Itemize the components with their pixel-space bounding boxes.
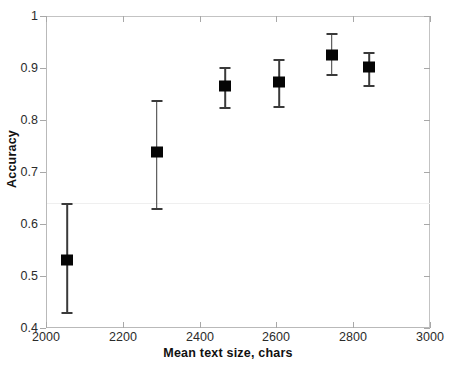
error-bar-cap-upper bbox=[364, 52, 375, 54]
y-axis-tick bbox=[40, 120, 46, 121]
x-axis-title: Mean text size, chars bbox=[0, 346, 456, 360]
data-point-marker[interactable] bbox=[363, 61, 375, 72]
y-axis-tick bbox=[40, 328, 46, 329]
data-point-marker[interactable] bbox=[61, 254, 73, 265]
error-bar-cap-lower bbox=[219, 107, 230, 109]
y-axis-tick bbox=[40, 172, 46, 173]
reference-line bbox=[47, 203, 430, 204]
y-axis-tick-label-text: 0.6 bbox=[21, 217, 38, 231]
x-axis-tick bbox=[430, 322, 431, 328]
error-bar-cap-upper bbox=[151, 100, 162, 102]
y-axis-tick-label-text: 0.8 bbox=[21, 113, 38, 127]
error-bar-cap-upper bbox=[274, 59, 285, 61]
error-bar-cap-lower bbox=[364, 85, 375, 87]
x-axis-tick-label: 2800 bbox=[339, 330, 367, 344]
y-axis-tick bbox=[424, 68, 430, 69]
y-axis-title: Accuracy bbox=[5, 114, 19, 204]
y-axis-tick bbox=[40, 224, 46, 225]
error-bar-cap-lower bbox=[62, 312, 73, 314]
x-axis-tick-label: 2000 bbox=[32, 330, 60, 344]
x-axis-tick-label: 2200 bbox=[109, 330, 137, 344]
x-axis-tick-label: 2600 bbox=[262, 330, 290, 344]
y-axis-tick bbox=[424, 224, 430, 225]
y-axis-tick bbox=[40, 68, 46, 69]
figure-canvas: 0.40.50.60.70.80.91 20002200240026002800… bbox=[0, 0, 456, 373]
data-point-marker[interactable] bbox=[273, 77, 285, 88]
x-axis-tick bbox=[353, 322, 354, 328]
y-axis-tick-label-text: 0.7 bbox=[21, 165, 38, 179]
x-axis-tick bbox=[46, 322, 47, 328]
x-axis-tick-label: 2400 bbox=[186, 330, 214, 344]
error-bar-cap-lower bbox=[274, 106, 285, 108]
error-bar-cap-lower bbox=[151, 208, 162, 210]
x-axis-tick bbox=[430, 16, 431, 22]
data-point-marker[interactable] bbox=[151, 147, 163, 158]
error-bar-cap-lower bbox=[326, 74, 337, 76]
y-axis-tick-label-text: 0.5 bbox=[21, 269, 38, 283]
x-axis-tick bbox=[46, 16, 47, 22]
y-axis-tick-label-text: 0.9 bbox=[21, 61, 38, 75]
error-bar-cap-upper bbox=[326, 33, 337, 35]
y-axis-tick-label-text: 1 bbox=[31, 9, 38, 23]
x-axis-tick bbox=[123, 16, 124, 22]
x-axis-tick bbox=[276, 322, 277, 328]
data-point-marker[interactable] bbox=[219, 81, 231, 92]
x-axis-tick bbox=[353, 16, 354, 22]
x-axis-tick bbox=[200, 322, 201, 328]
x-axis-tick bbox=[123, 322, 124, 328]
y-axis-tick bbox=[424, 276, 430, 277]
error-bar-cap-upper bbox=[219, 67, 230, 69]
x-axis-tick bbox=[276, 16, 277, 22]
x-axis-tick-label: 3000 bbox=[416, 330, 444, 344]
y-axis-tick bbox=[424, 172, 430, 173]
y-axis-tick bbox=[40, 276, 46, 277]
y-axis-tick bbox=[424, 120, 430, 121]
x-axis-tick bbox=[200, 16, 201, 22]
y-axis-tick bbox=[424, 328, 430, 329]
error-bar-cap-upper bbox=[62, 203, 73, 205]
data-point-marker[interactable] bbox=[326, 50, 338, 61]
